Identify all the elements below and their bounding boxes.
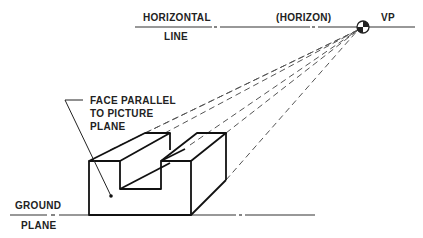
leader-dot: [109, 194, 113, 198]
horizontal-line-label-bottom: LINE: [164, 31, 188, 42]
face-parallel-label-2: TO PICTURE: [90, 108, 153, 119]
face-parallel-label-3: PLANE: [90, 121, 125, 132]
vanishing-point-icon: [357, 21, 369, 33]
vanishing-point-label: VP: [381, 12, 395, 23]
u-block-object: [89, 133, 226, 215]
face-parallel-label-1: FACE PARALLEL: [90, 95, 176, 106]
perspective-diagram: HORIZONTAL LINE (HORIZON) VP FACE PARALL…: [0, 0, 423, 238]
horizontal-line-label-top: HORIZONTAL: [143, 12, 211, 23]
horizon-label: (HORIZON): [276, 12, 331, 23]
ground-plane-label-top: GROUND: [15, 200, 61, 211]
ground-plane-label-bottom: PLANE: [21, 220, 56, 231]
diagram-svg: [0, 0, 423, 238]
